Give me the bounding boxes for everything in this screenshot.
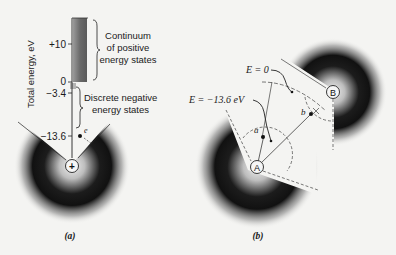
caption-a: (a) <box>64 231 75 242</box>
continuum-bar <box>73 18 87 82</box>
arrow-e-zero <box>271 70 292 92</box>
tick-label-minus3-4: −3.4 <box>46 88 66 99</box>
nucleus-A-label: A <box>254 163 260 173</box>
discrete-levels <box>70 84 76 88</box>
energy-diagram-figure: +10 0 −3.4 −13.6 Total energy, eV Contin… <box>0 0 396 255</box>
tick-label-minus13-6: −13.6 <box>41 131 67 142</box>
discrete-label-line1: Discrete negative <box>84 92 157 103</box>
caption-b: (b) <box>252 231 263 242</box>
point-b-label: b <box>301 107 306 117</box>
point-a-marker <box>261 135 265 139</box>
panel-a: +10 0 −3.4 −13.6 Total energy, eV Contin… <box>14 18 157 242</box>
tick-label-zero: 0 <box>60 76 66 87</box>
electron-label: e <box>84 126 88 135</box>
point-b-marker <box>309 112 313 116</box>
bound-orbit-arc-a <box>243 127 292 171</box>
electron-orbit-dash <box>84 138 92 144</box>
nucleus-B-label: B <box>330 88 336 98</box>
label-e-zero: E = 0 <box>245 64 269 75</box>
discrete-label-line2: energy states <box>92 104 149 115</box>
cross-marker-b <box>313 108 319 114</box>
tick-label-plus10: +10 <box>49 39 66 50</box>
label-e-bound: E = −13.6 eV <box>188 94 246 105</box>
panel-b: E = 0 E = −13.6 eV a b A B (b) <box>188 38 387 242</box>
nucleus-symbol: + <box>69 161 75 172</box>
electron-dot <box>78 134 82 138</box>
continuum-label-line3: energy states <box>99 54 156 65</box>
y-axis-label: Total energy, eV <box>25 39 36 108</box>
axis-ticks <box>68 44 72 136</box>
discrete-brace <box>76 87 83 128</box>
point-a-label: a <box>254 125 259 135</box>
continuum-brace <box>93 20 100 80</box>
continuum-label-line1: Continuum <box>105 30 151 41</box>
continuum-label-line2: of positive <box>107 42 150 53</box>
